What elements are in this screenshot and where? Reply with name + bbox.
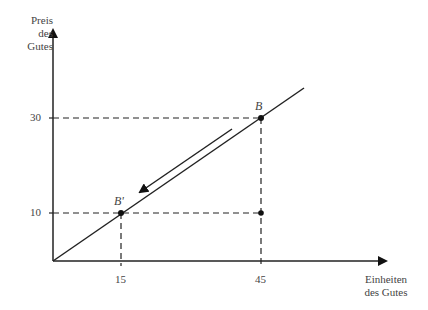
- movement-arrow: [140, 129, 232, 192]
- x-tick-label-15: 15: [115, 273, 126, 285]
- x-tick-label-45: 45: [255, 273, 266, 285]
- point-extra: [258, 210, 264, 216]
- y-label-line1: Preis: [0, 14, 53, 27]
- point-label-b-prime: B': [114, 194, 124, 209]
- y-label-line3: Gutes: [0, 40, 53, 53]
- y-axis-label: Preis des Gutes: [0, 14, 53, 53]
- x-label-line2: des Gutes: [354, 286, 418, 299]
- point-b-prime: [118, 210, 124, 216]
- x-axis-label: Einheiten des Gutes: [354, 273, 418, 299]
- y-tick-label-30: 30: [30, 111, 41, 123]
- y-tick-label-10: 10: [30, 206, 41, 218]
- x-label-line1: Einheiten: [354, 273, 418, 286]
- diagram-canvas: [0, 0, 428, 310]
- point-label-b: B: [255, 99, 262, 114]
- point-b: [258, 115, 264, 121]
- y-label-line2: des: [0, 27, 53, 40]
- supply-line: [53, 88, 304, 261]
